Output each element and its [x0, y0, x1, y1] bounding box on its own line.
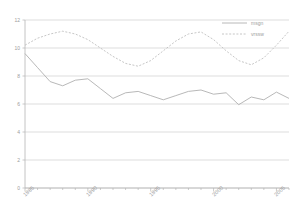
y-axis-tick-label: 10 [4, 45, 20, 51]
line-chart: 024681012 19851990199520002005 msgnvrssw [0, 0, 294, 215]
y-axis-tick-label: 4 [4, 129, 20, 135]
series-line-msgn [25, 54, 289, 105]
y-axis-tick-label: 2 [4, 157, 20, 163]
series-line-vrssw [25, 31, 289, 66]
gridlines [25, 20, 289, 188]
data-series [25, 31, 289, 105]
legend-label-msgn: msgn [251, 20, 263, 26]
y-axis-tick-label: 8 [4, 73, 20, 79]
y-axis-tick-label: 6 [4, 101, 20, 107]
y-axis-tick-label: 12 [4, 17, 20, 23]
y-axis-tick-label: 0 [4, 185, 20, 191]
plot-area [0, 0, 294, 215]
legend-label-vrssw: vrssw [251, 31, 264, 37]
legend-swatches [222, 23, 247, 34]
